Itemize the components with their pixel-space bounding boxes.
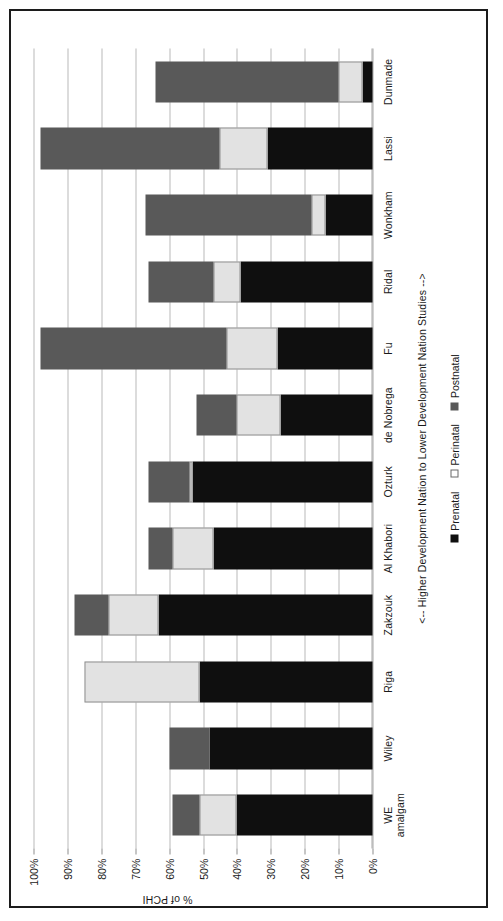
value-axis-tick-label: 70% (129, 858, 141, 892)
axis-tick (33, 848, 34, 854)
category-label: Ridal (382, 248, 394, 315)
category-label: Dunmade (382, 48, 394, 115)
bar-segment-prenatal[interactable] (280, 394, 372, 435)
value-axis-title: % of PCHI (142, 893, 192, 905)
category-axis-caption: <-- Higher Development Nation to Lower D… (415, 48, 427, 848)
axis-tick (169, 848, 170, 854)
bar-segment-perinatal[interactable] (338, 61, 362, 102)
bar-group[interactable] (33, 127, 372, 168)
bar-segment-perinatal[interactable] (213, 261, 240, 302)
value-axis-tick-label: 100% (27, 858, 39, 892)
bar-segment-postnatal[interactable] (155, 61, 338, 102)
legend-item-perinatal[interactable]: Perinatal (448, 424, 460, 477)
bar-segment-prenatal[interactable] (213, 527, 372, 568)
legend-item-postnatal[interactable]: Postnatal (448, 354, 460, 410)
legend-label: Postnatal (448, 354, 460, 398)
value-axis-tick-label: 40% (230, 858, 242, 892)
bar-segment-perinatal[interactable] (311, 194, 325, 235)
stacked-bar[interactable] (33, 527, 372, 568)
bar-group[interactable] (33, 194, 372, 235)
category-label: Al Khabori (382, 515, 394, 582)
chart-frame: 0%10%20%30%40%50%60%70%80%90%100% % of P… (9, 9, 488, 908)
axis-tick (203, 848, 204, 854)
bar-segment-postnatal[interactable] (148, 261, 212, 302)
bar-group[interactable] (33, 61, 372, 102)
bar-group[interactable] (33, 327, 372, 368)
bar-group[interactable] (33, 594, 372, 635)
stacked-bar[interactable] (33, 794, 372, 835)
bar-segment-prenatal[interactable] (362, 61, 372, 102)
bar-group[interactable] (33, 661, 372, 702)
value-axis-tick-label: 90% (61, 858, 73, 892)
axis-tick (338, 848, 339, 854)
stacked-bar[interactable] (33, 461, 372, 502)
category-label: WEamalgam (382, 781, 405, 848)
category-label: Riga (382, 648, 394, 715)
category-label: Wiley (382, 715, 394, 782)
chart-page: 0%10%20%30%40%50%60%70%80%90%100% % of P… (0, 0, 503, 921)
bar-segment-postnatal[interactable] (148, 527, 172, 568)
rotated-chart-stage: 0%10%20%30%40%50%60%70%80%90%100% % of P… (11, 11, 486, 906)
bar-segment-perinatal[interactable] (108, 594, 159, 635)
bar-segment-prenatal[interactable] (240, 261, 372, 302)
bar-segment-postnatal[interactable] (172, 794, 199, 835)
bar-group[interactable] (33, 727, 372, 768)
bar-group[interactable] (33, 261, 372, 302)
stacked-bar[interactable] (33, 127, 372, 168)
axis-tick (67, 848, 68, 854)
bar-segment-prenatal[interactable] (325, 194, 372, 235)
bar-segment-postnatal[interactable] (148, 461, 189, 502)
bar-segment-prenatal[interactable] (236, 794, 372, 835)
axis-tick (270, 848, 271, 854)
bar-segment-postnatal[interactable] (169, 727, 210, 768)
bar-segment-prenatal[interactable] (199, 661, 372, 702)
bar-segment-perinatal[interactable] (84, 661, 199, 702)
bar-segment-perinatal[interactable] (172, 527, 213, 568)
bar-segment-postnatal[interactable] (74, 594, 108, 635)
axis-tick (101, 848, 102, 854)
value-axis-tick-label: 10% (332, 858, 344, 892)
bar-group[interactable] (33, 527, 372, 568)
stacked-bar[interactable] (33, 194, 372, 235)
legend-swatch-postnatal-icon (450, 402, 458, 410)
stacked-bar[interactable] (33, 261, 372, 302)
stacked-bar[interactable] (33, 327, 372, 368)
legend-item-prenatal[interactable]: Prenatal (448, 491, 460, 542)
bar-segment-prenatal[interactable] (158, 594, 372, 635)
bar-segment-postnatal[interactable] (40, 327, 226, 368)
stacked-bar[interactable] (33, 394, 372, 435)
bar-segment-postnatal[interactable] (145, 194, 311, 235)
stacked-bar[interactable] (33, 727, 372, 768)
axis-tick (135, 848, 136, 854)
bar-group[interactable] (33, 394, 372, 435)
bar-segment-perinatal[interactable] (199, 794, 236, 835)
value-axis-tick-label: 80% (95, 858, 107, 892)
bar-segment-perinatal[interactable] (236, 394, 280, 435)
axis-tick (304, 848, 305, 854)
bar-segment-prenatal[interactable] (192, 461, 372, 502)
bar-segment-prenatal[interactable] (209, 727, 372, 768)
category-label: Zakzouk (382, 581, 394, 648)
category-label: Wonkham (382, 181, 394, 248)
bar-segment-prenatal[interactable] (277, 327, 372, 368)
value-axis-tick-label: 0% (366, 858, 378, 892)
category-label: Ozturk (382, 448, 394, 515)
stacked-bar[interactable] (33, 661, 372, 702)
value-axis-tick-label: 30% (264, 858, 276, 892)
stacked-bar[interactable] (33, 594, 372, 635)
bar-segment-perinatal[interactable] (226, 327, 277, 368)
value-axis-tick-label: 20% (298, 858, 310, 892)
stacked-bar[interactable] (33, 61, 372, 102)
bar-segment-postnatal[interactable] (40, 127, 220, 168)
bar-group[interactable] (33, 794, 372, 835)
category-label: Fu (382, 315, 394, 382)
bar-segment-postnatal[interactable] (196, 394, 237, 435)
legend-label: Perinatal (448, 424, 460, 465)
bar-segment-perinatal[interactable] (189, 461, 192, 502)
bar-group[interactable] (33, 461, 372, 502)
bar-segment-prenatal[interactable] (267, 127, 372, 168)
bar-segment-perinatal[interactable] (219, 127, 266, 168)
value-axis-tick-label: 60% (163, 858, 175, 892)
category-label: Lassi (382, 115, 394, 182)
chart-legend: PrenatalPerinatalPostnatal (448, 48, 460, 848)
